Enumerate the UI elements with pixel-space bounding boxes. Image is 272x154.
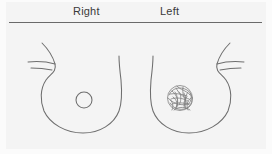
left-mass-lesion <box>168 86 193 111</box>
right-nipple-circle <box>76 92 92 108</box>
left-axillary-tail-upper <box>217 62 244 64</box>
breast-outline-artwork <box>0 0 272 154</box>
left-axillary-tail-lower <box>220 68 241 70</box>
breast-diagram-figure: Right Left <box>0 0 272 154</box>
right-axillary-tail-lower <box>31 68 52 70</box>
right-breast-outline <box>41 43 121 133</box>
right-axillary-tail-upper <box>28 62 55 64</box>
left-breast-outline <box>150 43 230 133</box>
